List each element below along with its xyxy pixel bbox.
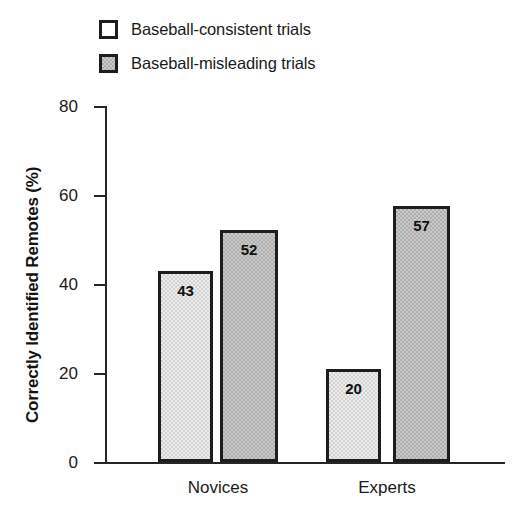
bar-value-novices-misleading: 52 (223, 242, 275, 257)
bar-experts-misleading: 57 (393, 206, 450, 462)
legend-label-baseball-misleading: Baseball-misleading trials (131, 54, 315, 73)
bar-chart-figure: Baseball-consistent trials Baseball-misl… (0, 0, 530, 511)
bar-value-novices-consistent: 43 (161, 283, 210, 298)
bar-novices-consistent: 43 (158, 271, 213, 462)
plot-area: 80 60 40 20 0 43 52 20 57 Novices Expert… (105, 106, 505, 462)
y-tick-80: 80 (94, 106, 105, 108)
bar-value-experts-consistent: 20 (329, 381, 378, 396)
bar-value-experts-misleading: 57 (396, 218, 447, 233)
x-axis-label-experts: Experts (358, 478, 416, 497)
y-tick-label-0: 0 (69, 454, 78, 471)
legend-swatch-light-icon (99, 20, 118, 39)
y-tick-0: 0 (94, 462, 105, 464)
bar-novices-misleading: 52 (220, 230, 278, 462)
x-axis-line (105, 462, 505, 464)
y-tick-40: 40 (94, 284, 105, 286)
legend-item-baseball-consistent: Baseball-consistent trials (99, 18, 429, 41)
chart-legend: Baseball-consistent trials Baseball-misl… (99, 18, 429, 86)
legend-item-baseball-misleading: Baseball-misleading trials (99, 52, 429, 75)
y-axis-title: Correctly Identified Remotes (%) (23, 167, 43, 423)
y-tick-label-40: 40 (59, 276, 78, 293)
legend-label-baseball-consistent: Baseball-consistent trials (131, 20, 311, 39)
legend-swatch-dark-icon (99, 54, 118, 73)
y-axis-line (105, 106, 107, 463)
y-tick-label-20: 20 (59, 365, 78, 382)
x-axis-label-novices: Novices (188, 478, 248, 497)
y-tick-label-80: 80 (59, 98, 78, 115)
bar-experts-consistent: 20 (326, 369, 381, 462)
y-tick-60: 60 (94, 195, 105, 197)
y-tick-label-60: 60 (59, 187, 78, 204)
y-tick-20: 20 (94, 373, 105, 375)
